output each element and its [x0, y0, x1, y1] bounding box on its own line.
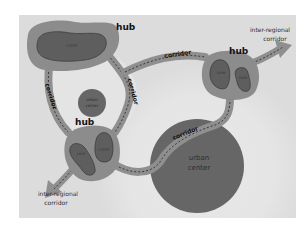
- core-label-top-left: core: [67, 42, 78, 48]
- inter-regional-top-line1: inter-regional: [250, 26, 290, 34]
- urban-center-small-line2: center: [86, 103, 99, 108]
- urban-center-small-line1: urban: [86, 97, 98, 102]
- urban-center-large-line1: urban: [189, 154, 209, 162]
- inter-regional-bottom-line1: inter-regional: [38, 190, 78, 198]
- urban-center-large-line2: center: [188, 164, 211, 172]
- corridor-hub-diagram: hub core hub core core hub core core urb…: [0, 0, 308, 230]
- core-label-bottom-left-2: core: [99, 146, 110, 152]
- inter-regional-bottom-line2: corridor: [44, 199, 68, 206]
- hub-bottom-left: [64, 125, 120, 181]
- hub-label-top-left: hub: [116, 22, 136, 32]
- hub-label-right: hub: [229, 46, 249, 56]
- core-label-right-1: core: [217, 70, 226, 75]
- inter-regional-top-line2: corridor: [263, 35, 287, 42]
- core-label-bottom-left-1: core: [77, 151, 86, 156]
- hub-label-bottom-left: hub: [75, 117, 95, 127]
- hub-right: [202, 51, 259, 100]
- core-label-right-2: core: [239, 75, 248, 80]
